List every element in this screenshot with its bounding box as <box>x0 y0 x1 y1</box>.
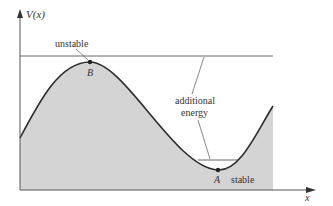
additional-leader-line-bottom <box>198 120 210 159</box>
y-axis-label: V(x) <box>26 8 45 21</box>
point-b-marker <box>88 60 92 64</box>
unstable-leader-line <box>76 49 88 60</box>
unstable-label: unstable <box>55 38 89 49</box>
shaded-region <box>20 62 273 190</box>
additional-leader-line-top <box>192 57 204 94</box>
additional-label: additional <box>175 95 215 106</box>
potential-energy-diagram: V(x) x B unstable A stable additional en… <box>0 0 333 206</box>
y-axis-arrow-icon <box>17 9 23 18</box>
x-axis-label: x <box>304 192 310 203</box>
point-b-label: B <box>87 67 93 78</box>
point-a-label: A <box>213 174 221 185</box>
stable-label: stable <box>231 174 255 185</box>
energy-label: energy <box>181 107 208 118</box>
point-a-marker <box>216 168 220 172</box>
